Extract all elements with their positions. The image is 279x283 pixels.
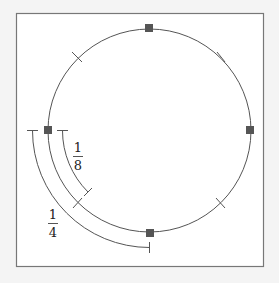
fraction-bar [73, 156, 83, 157]
label-one-quarter: 1 4 [48, 208, 58, 239]
circle-fraction-diagram [0, 0, 279, 283]
fraction-bar [48, 223, 58, 224]
label-one-eighth-numerator: 1 [74, 141, 82, 154]
label-one-quarter-numerator: 1 [49, 208, 57, 221]
label-one-eighth: 1 8 [73, 141, 83, 172]
marker-bottom [146, 229, 154, 237]
marker-right [246, 126, 254, 134]
label-one-quarter-denominator: 4 [49, 226, 57, 239]
marker-left [44, 126, 52, 134]
label-one-eighth-denominator: 8 [74, 159, 82, 172]
marker-top [145, 24, 153, 32]
